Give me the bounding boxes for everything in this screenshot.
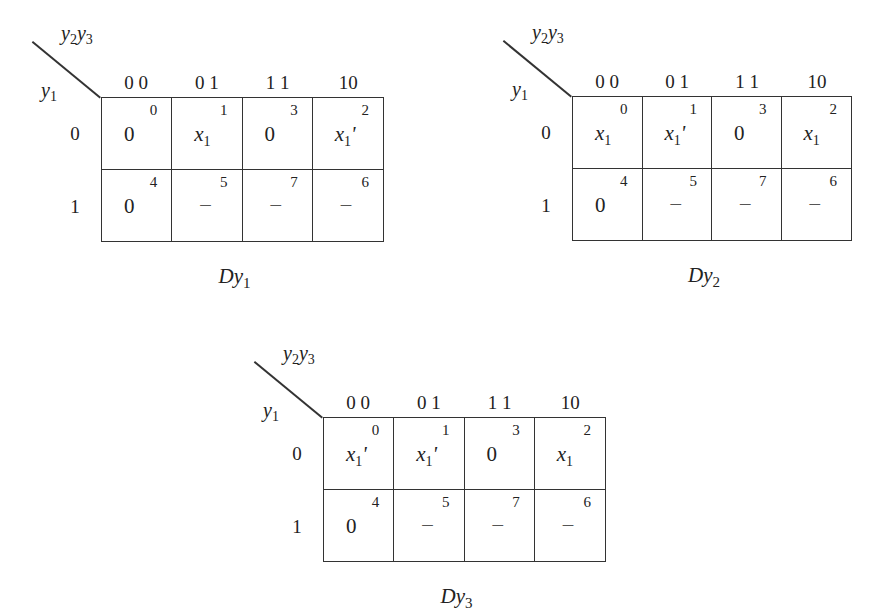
title-main: Dy [441, 584, 466, 608]
title-subscript: 3 [465, 595, 473, 609]
cell-value: 0 [595, 193, 606, 218]
column-header: 10 [313, 72, 383, 94]
kmap-title: Dy2 [688, 263, 720, 291]
cell-value: 0 [487, 442, 498, 467]
cell-value: x1 [194, 122, 210, 150]
kmap-cell: 2x1' [313, 98, 383, 170]
column-variable-label: y2y3 [532, 21, 564, 47]
kmap-cell: 00 [102, 98, 172, 170]
minterm-index: 0 [620, 101, 628, 118]
kmap-grid: 0x11x1'302x1405–7–6– [572, 96, 852, 241]
minterm-index: 3 [759, 101, 767, 118]
row-header: 0 [536, 122, 556, 144]
row-variable-label: y1 [512, 78, 528, 104]
title-main: Dy [219, 264, 244, 288]
column-header: 1 1 [465, 392, 535, 414]
minterm-index: 3 [290, 102, 298, 119]
cell-value: x1 [595, 121, 611, 149]
row-variable-label: y1 [41, 79, 57, 105]
cell-value: x1' [416, 442, 437, 470]
dont-care-value: – [810, 191, 821, 216]
minterm-index: 4 [620, 173, 628, 190]
minterm-index: 0 [372, 422, 380, 439]
kmap-cell: 30 [243, 98, 313, 170]
kmap-title: Dy1 [219, 264, 251, 292]
dont-care-value: – [493, 512, 504, 537]
dont-care-value: – [200, 192, 211, 217]
minterm-index: 4 [150, 174, 158, 191]
cell-value: x1' [665, 121, 686, 149]
kmap-cell: 2x1 [782, 97, 852, 169]
kmap-cell: 30 [712, 97, 782, 169]
kmap-cell: 6– [535, 490, 605, 562]
minterm-index: 5 [220, 174, 228, 191]
minterm-index: 2 [362, 102, 370, 119]
column-header: 0 1 [642, 71, 712, 93]
minterm-index: 1 [690, 101, 698, 118]
cell-value: 0 [734, 121, 745, 146]
minterm-index: 7 [512, 494, 520, 511]
kmap-title: Dy3 [441, 584, 473, 609]
column-variable-label: y2y3 [61, 22, 93, 48]
kmap-cell: 5– [394, 490, 464, 562]
dont-care-value: – [671, 191, 682, 216]
cell-value: 0 [265, 122, 276, 147]
cell-value: 0 [346, 514, 357, 539]
kmap-cell: 1x1 [172, 98, 242, 170]
column-header: 1 1 [243, 72, 313, 94]
kmap-cell: 30 [465, 418, 535, 490]
row-variable-label: y1 [263, 399, 279, 425]
title-main: Dy [688, 263, 713, 287]
row-header: 1 [536, 195, 556, 217]
column-header: 0 0 [101, 72, 171, 94]
kmap-cell: 0x1' [324, 418, 394, 490]
kmap-cell: 7– [243, 170, 313, 242]
minterm-index: 0 [150, 102, 158, 119]
minterm-index: 3 [512, 422, 520, 439]
kmap-cell: 40 [324, 490, 394, 562]
kmap-cell: 40 [102, 170, 172, 242]
column-header: 1 1 [712, 71, 782, 93]
column-header: 0 1 [394, 392, 464, 414]
kmap-grid: 001x1302x1'405–7–6– [101, 97, 384, 242]
kmap-cell: 6– [782, 169, 852, 241]
minterm-index: 4 [372, 494, 380, 511]
row-header: 0 [287, 443, 307, 465]
row-header: 1 [65, 196, 85, 218]
minterm-index: 7 [290, 174, 298, 191]
cell-value: x1' [346, 442, 367, 470]
kmap-grid: 0x1'1x1'302x1405–7–6– [323, 417, 606, 562]
column-header: 10 [535, 392, 605, 414]
cell-value: 0 [124, 194, 135, 219]
minterm-index: 1 [442, 422, 450, 439]
cell-value: x1' [335, 122, 356, 150]
minterm-index: 2 [584, 422, 592, 439]
dont-care-value: – [422, 512, 433, 537]
kmap-cell: 7– [712, 169, 782, 241]
minterm-index: 1 [220, 102, 228, 119]
dont-care-value: – [740, 191, 751, 216]
kmap-cell: 7– [465, 490, 535, 562]
kmap-cell: 5– [643, 169, 713, 241]
minterm-index: 5 [690, 173, 698, 190]
kmap-cell: 1x1' [643, 97, 713, 169]
minterm-index: 6 [362, 174, 370, 191]
column-header: 0 0 [323, 392, 393, 414]
column-variable-label: y2y3 [283, 342, 315, 368]
kmap-cell: 2x1 [535, 418, 605, 490]
column-header: 10 [782, 71, 852, 93]
column-header: 0 1 [172, 72, 242, 94]
row-header: 0 [65, 123, 85, 145]
row-header: 1 [287, 516, 307, 538]
kmap-cell: 0x1 [573, 97, 643, 169]
minterm-index: 6 [830, 173, 838, 190]
minterm-index: 6 [584, 494, 592, 511]
cell-value: x1 [557, 442, 573, 470]
title-subscript: 1 [243, 275, 251, 291]
minterm-index: 5 [442, 494, 450, 511]
dont-care-value: – [271, 192, 282, 217]
title-subscript: 2 [713, 274, 721, 290]
kmap-cell: 6– [313, 170, 383, 242]
cell-value: x1 [804, 121, 820, 149]
dont-care-value: – [563, 512, 574, 537]
